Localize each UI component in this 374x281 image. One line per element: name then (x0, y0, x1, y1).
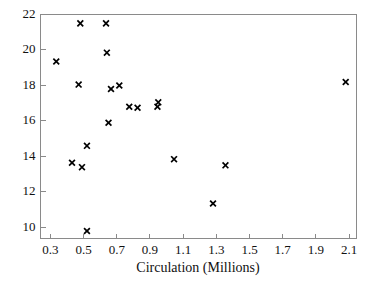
x-tick-label: 1.3 (208, 242, 224, 257)
y-tick-label: 12 (23, 183, 36, 198)
x-tick-label: 0.7 (109, 242, 126, 257)
x-tick-label: 0.3 (42, 242, 58, 257)
y-tick-label: 14 (23, 148, 37, 163)
x-tick-label: 0.9 (142, 242, 158, 257)
y-tick-label: 10 (23, 219, 36, 234)
x-tick-label: 1.1 (175, 242, 191, 257)
y-tick-label: 16 (23, 112, 37, 127)
x-tick-label: 2.1 (341, 242, 357, 257)
x-axis-label: Circulation (Millions) (136, 260, 260, 276)
x-tick-label: 0.5 (76, 242, 92, 257)
y-tick-label: 18 (23, 77, 36, 92)
x-tick-label: 1.9 (308, 242, 324, 257)
scatter-plot-figure: 0.30.50.70.91.11.31.51.71.92.1 101214161… (0, 0, 374, 281)
y-tick-label: 20 (23, 41, 36, 56)
y-tick-label: 22 (23, 6, 36, 21)
x-tick-label: 1.5 (241, 242, 257, 257)
plot-canvas: 0.30.50.70.91.11.31.51.71.92.1 101214161… (0, 0, 374, 281)
x-tick-label: 1.7 (275, 242, 292, 257)
